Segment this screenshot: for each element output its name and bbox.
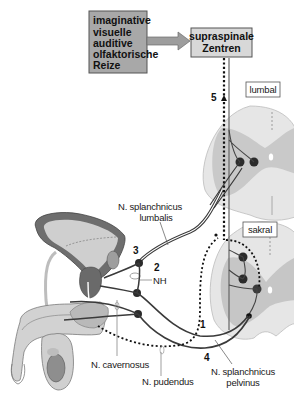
label-nh: NH <box>153 275 167 286</box>
testis <box>47 354 65 382</box>
label-pudendus: N. pudendus <box>142 376 194 387</box>
lumbal-central-canal <box>269 154 273 161</box>
label-splanchnicus-pelvinus-1: N. splanchnicus <box>211 366 276 377</box>
supraspinal-box: supraspinale Zentren <box>189 28 254 57</box>
label-splanchnicus-lumbalis-2: lumbalis <box>139 212 173 223</box>
supraspinal-line-2: Zentren <box>202 42 241 54</box>
label-splanchnicus-lumbalis-1: N. splanchnicus <box>118 201 183 212</box>
pudendus-marker <box>160 346 164 354</box>
seminal-vesicle <box>107 251 119 269</box>
spinal-cord-sakral <box>210 222 294 339</box>
pathway-number-3: 3 <box>133 245 139 256</box>
erection-reflex-diagram: imaginative visuelle auditive olfaktoris… <box>0 0 294 399</box>
pointer-splanchnicus-lumbalis <box>160 222 168 245</box>
scrotum <box>42 334 74 391</box>
pathway-number-5: 5 <box>211 92 217 103</box>
stimuli-line-1: imaginative <box>93 14 151 26</box>
sakral-central-canal <box>268 287 272 294</box>
sakral-label-box: sakral <box>243 222 277 237</box>
prostate <box>79 267 101 298</box>
supraspinal-line-1: supraspinale <box>189 30 254 42</box>
pathway-number-2: 2 <box>154 262 160 273</box>
label-cavernosus: N. cavernosus <box>91 359 150 370</box>
label-splanchnicus-pelvinus-2: pelvinus <box>226 377 260 388</box>
pathway-number-4: 4 <box>204 352 210 363</box>
lumbal-label-box: lumbal <box>246 82 280 97</box>
stimuli-line-5: Reize <box>93 59 121 71</box>
lumbal-label: lumbal <box>250 84 277 95</box>
sakral-label: sakral <box>248 224 272 235</box>
pathway-5-arrowhead <box>221 95 227 101</box>
bladder <box>35 213 125 281</box>
pathway-number-1: 1 <box>200 319 206 330</box>
dotted-pathway-node <box>214 233 217 236</box>
epididymis <box>47 348 59 356</box>
nh-ganglion <box>130 273 140 279</box>
